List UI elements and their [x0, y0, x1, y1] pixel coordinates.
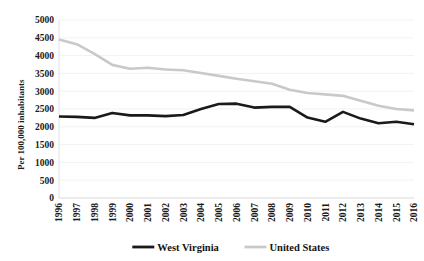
x-tick-label: 1998 — [90, 203, 100, 222]
y-tick-label: 1500 — [35, 140, 54, 150]
x-tick-label: 2014 — [374, 203, 384, 222]
y-tick-label: 3500 — [35, 69, 54, 79]
x-tick-label: 2001 — [143, 203, 153, 222]
x-tick-label: 2013 — [356, 203, 366, 222]
legend-label: West Virginia — [157, 242, 219, 253]
y-tick-label: 2500 — [35, 104, 54, 114]
legend-label: United States — [270, 242, 330, 253]
y-tick-label: 500 — [40, 176, 55, 186]
y-tick-label: 1000 — [35, 158, 54, 168]
x-tick-label: 2007 — [250, 203, 260, 222]
x-tick-label: 2012 — [338, 203, 348, 222]
x-tick-label: 2002 — [161, 203, 171, 222]
y-tick-label: 5000 — [35, 15, 54, 25]
x-tick-label: 2016 — [409, 203, 419, 222]
x-tick-label: 1999 — [108, 203, 118, 222]
x-tick-label: 1997 — [72, 203, 82, 222]
x-tick-label: 2010 — [303, 203, 313, 222]
x-tick-label: 2006 — [232, 203, 242, 222]
y-axis-title: Per 100,000 inhabitants — [16, 79, 26, 170]
x-tick-label: 2011 — [321, 203, 331, 222]
y-tick-label: 4000 — [35, 51, 54, 61]
y-tick-label: 2000 — [35, 122, 54, 132]
x-tick-label: 2000 — [125, 203, 135, 222]
y-tick-label: 4500 — [35, 33, 54, 43]
x-tick-label: 1996 — [54, 203, 64, 222]
x-tick-label: 2009 — [285, 203, 295, 222]
y-tick-label: 0 — [49, 193, 54, 203]
x-tick-label: 2003 — [179, 203, 189, 222]
y-axis-title-text: Per 100,000 inhabitants — [16, 79, 26, 170]
x-tick-label: 2005 — [214, 203, 224, 222]
x-tick-label: 2004 — [196, 203, 206, 222]
x-tick-label: 2015 — [392, 203, 402, 222]
line-chart: Per 100,000 inhabitants 0500100015002000… — [0, 0, 424, 261]
chart-figure: Drug Overdose Per 100,000 inhabitants 05… — [0, 0, 424, 261]
x-axis-tick-labels: 1996199719981999200020012002200320042005… — [54, 203, 419, 222]
x-tick-label: 2008 — [267, 203, 277, 222]
y-tick-label: 3000 — [35, 87, 54, 97]
